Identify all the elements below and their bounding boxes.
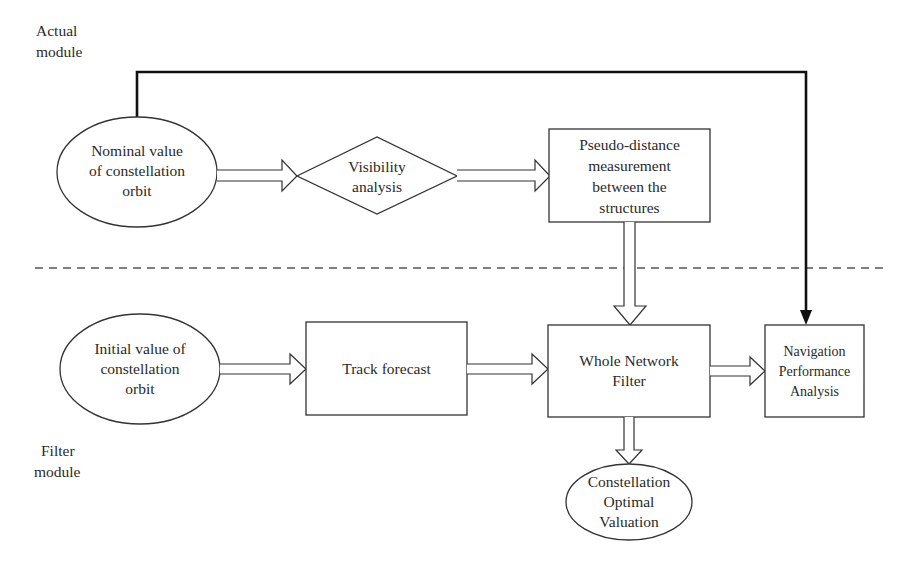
label-line: constellation bbox=[60, 359, 220, 379]
arrow-nominal-visibility bbox=[217, 160, 297, 191]
arrow-whole-optimal bbox=[616, 417, 642, 464]
filter-module-label: Filter module bbox=[34, 440, 81, 482]
initial-label: Initial value of constellation orbit bbox=[60, 339, 220, 399]
actual-label-line: module bbox=[36, 41, 83, 62]
label-line: Initial value of bbox=[60, 339, 220, 359]
label-line: Filter bbox=[548, 371, 710, 391]
label-line: Valuation bbox=[566, 512, 692, 532]
visibility-label: Visibility analysis bbox=[317, 157, 437, 197]
navigation-label: Navigation Performance Analysis bbox=[765, 342, 864, 402]
label-line: of constellation bbox=[57, 161, 217, 181]
label-line: measurement bbox=[549, 155, 710, 176]
label-line: structures bbox=[549, 197, 710, 218]
label-line: Analysis bbox=[765, 382, 864, 402]
actual-module-label: Actual module bbox=[36, 20, 83, 62]
label-line: Constellation bbox=[566, 472, 692, 492]
label-line: Pseudo-distance bbox=[549, 134, 710, 155]
arrow-initial-track bbox=[220, 354, 306, 384]
label-line: Performance bbox=[765, 362, 864, 382]
arrow-visibility-pseudo bbox=[457, 160, 550, 191]
label-line: orbit bbox=[60, 379, 220, 399]
label-line: Nominal value bbox=[57, 141, 217, 161]
label-line: orbit bbox=[57, 181, 217, 201]
label-line: Track forecast bbox=[306, 359, 467, 379]
label-line: Visibility bbox=[317, 157, 437, 177]
label-line: Navigation bbox=[765, 342, 864, 362]
arrow-track-whole bbox=[467, 354, 548, 384]
pseudo-label: Pseudo-distance measurement between the … bbox=[549, 134, 710, 218]
filter-label-line: module bbox=[34, 461, 81, 482]
nominal-label: Nominal value of constellation orbit bbox=[57, 141, 217, 201]
arrow-whole-navigation bbox=[710, 357, 765, 385]
filter-label-line: Filter bbox=[34, 440, 81, 461]
track-label: Track forecast bbox=[306, 359, 467, 379]
label-line: Whole Network bbox=[548, 351, 710, 371]
arrow-pseudo-whole bbox=[614, 222, 646, 325]
optimal-label: Constellation Optimal Valuation bbox=[566, 472, 692, 532]
diagram-canvas bbox=[0, 0, 908, 562]
label-line: analysis bbox=[317, 177, 437, 197]
whole-label: Whole Network Filter bbox=[548, 351, 710, 391]
feedback-arrowhead-icon bbox=[800, 310, 812, 325]
label-line: between the bbox=[549, 176, 710, 197]
actual-label-line: Actual bbox=[36, 20, 83, 41]
label-line: Optimal bbox=[566, 492, 692, 512]
